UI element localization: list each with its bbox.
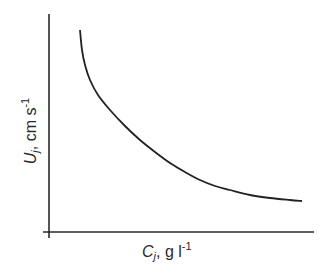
x-axis-unit: , g l	[156, 243, 182, 260]
chart-plot-area	[0, 0, 330, 275]
y-axis-subscript: j	[29, 150, 41, 152]
x-axis-superscript: -1	[182, 240, 192, 252]
x-axis-label: Cj, g l-1	[142, 240, 192, 262]
y-axis-symbol: U	[22, 153, 39, 165]
y-axis-unit: , cm s	[22, 108, 39, 151]
x-axis-symbol: C	[142, 243, 154, 260]
y-axis-label: Uj, cm s-1	[19, 98, 41, 164]
y-axis-superscript: -1	[19, 98, 31, 108]
data-curve	[80, 30, 302, 201]
